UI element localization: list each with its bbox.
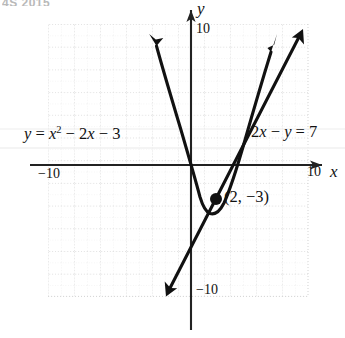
- y-axis-tick-label-minus-10: −10: [196, 283, 218, 297]
- x-axis-name-label: x: [330, 163, 338, 180]
- intersection-point-label: (2, −3): [224, 189, 269, 206]
- x-axis-tick-label-10: 10: [307, 165, 321, 179]
- graph-figure: 4S 2015: [0, 0, 345, 338]
- grid-lines: [48, 24, 308, 296]
- y-axis-tick-label-10: 10: [196, 22, 210, 36]
- intersection-point-marker: [210, 193, 222, 205]
- parabola-equation-label: y = x2 − 2x − 3: [24, 126, 120, 143]
- line-equation-label: 2x − y = 7: [251, 124, 317, 141]
- x-axis-tick-label-minus-10: −10: [38, 167, 60, 181]
- y-axis-name-label: y: [197, 0, 205, 17]
